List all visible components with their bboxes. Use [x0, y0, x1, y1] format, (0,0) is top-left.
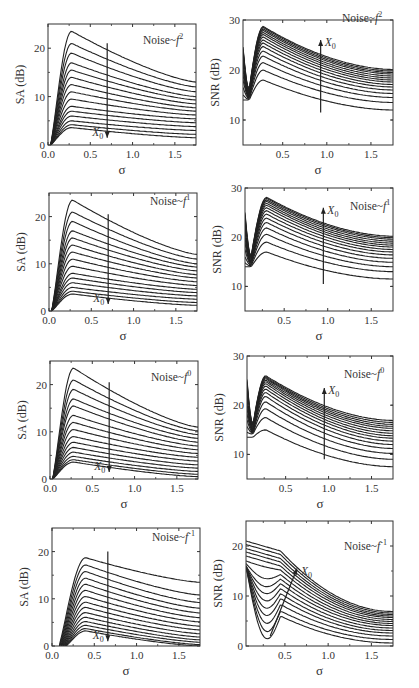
y-axis-label: SNR (dB)	[210, 225, 224, 273]
y-tick-label: 10	[231, 280, 243, 292]
curves	[247, 376, 393, 467]
y-axis-label: SA (dB)	[13, 65, 27, 105]
y-axis-label: SNR (dB)	[212, 393, 226, 441]
y-tick-label: 30	[231, 182, 243, 194]
chart-panel-4: 0.00.51.01.501020σSA (dB)Noise~f0X0	[15, 361, 198, 511]
x-axis-label: σ	[119, 328, 126, 343]
x-tick-label: 1.5	[168, 148, 182, 160]
y-tick-label: 20	[38, 546, 50, 558]
x-tick-label: 0.5	[87, 649, 101, 661]
y-tick-label: 30	[233, 350, 245, 362]
curves	[49, 200, 197, 316]
panel-title: Noise~f0	[344, 366, 384, 381]
panel-title: Noise~f1	[350, 198, 390, 213]
y-tick-label: 10	[233, 448, 245, 460]
data-curve	[50, 422, 198, 483]
curves	[243, 27, 393, 111]
x-tick-label: 0.5	[84, 314, 98, 326]
data-curve	[246, 552, 393, 616]
figure: 0.00.51.01.501020σSA (dB)Noise~f2X00.51.…	[0, 0, 419, 688]
arrow-label: X0	[326, 204, 338, 219]
y-tick-label: 10	[34, 91, 46, 103]
y-tick-label: 20	[36, 379, 48, 391]
x-axis-label: σ	[316, 496, 323, 511]
x-tick-label: 0.5	[85, 482, 99, 494]
y-axis-label: SNR (dB)	[208, 58, 222, 106]
x-tick-label: 1.0	[321, 649, 335, 661]
y-axis-label: SA (dB)	[17, 567, 31, 607]
chart-panel-5: 0.51.01.5102030σSNR (dB)Noise~f0X0	[212, 350, 393, 511]
x-tick-label: 1.0	[321, 314, 335, 326]
x-tick-label: 1.5	[364, 314, 378, 326]
data-curve	[243, 70, 393, 103]
x-tick-label: 0.5	[83, 148, 97, 160]
x-tick-label: 1.5	[169, 314, 183, 326]
arrow-label: X0	[93, 460, 105, 475]
chart-panel-0: 0.00.51.01.501020σSA (dB)Noise~f2X0	[13, 24, 196, 177]
arrowhead-icon	[105, 635, 110, 641]
chart-panel-2: 0.00.51.01.501020σSA (dB)Noise~f1X0	[14, 193, 197, 343]
y-tick-label: 0	[41, 305, 47, 317]
panel-title: Noise~f2	[143, 32, 183, 47]
data-curve	[50, 406, 198, 484]
x-tick-label: 1.5	[170, 482, 184, 494]
data-curve	[48, 70, 196, 150]
y-tick-label: 0	[42, 473, 48, 485]
y-tick-label: 0	[44, 640, 50, 652]
y-axis-label: SA (dB)	[14, 232, 28, 272]
y-tick-label: 0	[40, 139, 46, 151]
y-tick-label: 0	[238, 640, 244, 652]
data-curve	[48, 111, 196, 150]
x-axis-label: σ	[118, 162, 125, 177]
arrowhead-icon	[105, 132, 110, 138]
x-axis-label: σ	[122, 663, 129, 678]
panel-title: Noise~f-1	[152, 529, 195, 544]
y-tick-label: 20	[231, 231, 243, 243]
data-curve	[247, 430, 393, 467]
x-tick-label: 0.5	[278, 649, 292, 661]
y-tick-label: 20	[34, 42, 46, 54]
x-tick-label: 1.5	[172, 649, 186, 661]
chart-panel-7: 0.51.01.501020σSNR (dB)Noise~f-1X0	[211, 521, 393, 678]
chart-panel-3: 0.51.01.5102030σSNR (dB)Noise~f1X0	[210, 182, 393, 343]
data-curve	[49, 245, 197, 316]
panel-title: Noise~f2	[342, 10, 382, 25]
x-axis-label: σ	[315, 328, 322, 343]
arrowhead-icon	[107, 466, 112, 472]
x-tick-label: 1.0	[320, 148, 334, 160]
curves	[48, 31, 196, 149]
arrowhead-icon	[322, 388, 327, 394]
y-tick-label: 10	[232, 590, 244, 602]
y-axis-label: SNR (dB)	[211, 559, 225, 607]
y-tick-label: 20	[229, 64, 241, 76]
arrowhead-icon	[321, 208, 326, 214]
chart-panel-6: 0.00.51.01.501020σSA (dB)Noise~f-1X0	[17, 528, 200, 678]
data-curve	[243, 43, 393, 94]
arrow-label: X0	[327, 384, 339, 399]
x-tick-label: 0.5	[276, 148, 290, 160]
panel-title: Noise~f-1	[344, 538, 387, 553]
x-tick-label: 1.0	[127, 314, 141, 326]
y-tick-label: 10	[38, 593, 50, 605]
curves	[246, 541, 393, 643]
chart-panel-1: 0.51.01.5102030σSNR (dB)Noise~f2X0	[208, 10, 393, 177]
x-axis-label: σ	[120, 496, 127, 511]
y-tick-label: 10	[36, 426, 48, 438]
data-curve	[246, 566, 393, 640]
panel-title: Noise~f1	[150, 193, 190, 208]
y-tick-label: 10	[35, 258, 47, 270]
x-tick-label: 1.5	[364, 148, 378, 160]
data-curve	[48, 128, 196, 150]
x-tick-label: 1.0	[322, 482, 336, 494]
panel-title: Noise~f0	[151, 369, 191, 384]
y-tick-label: 20	[35, 211, 47, 223]
x-tick-label: 0.5	[279, 482, 293, 494]
x-axis-label: σ	[314, 162, 321, 177]
y-tick-label: 30	[229, 14, 241, 26]
y-tick-label: 20	[232, 540, 244, 552]
data-curve	[50, 380, 198, 484]
arrowhead-icon	[106, 298, 111, 304]
x-tick-label: 1.0	[128, 482, 142, 494]
x-tick-label: 1.0	[126, 148, 140, 160]
y-tick-label: 10	[229, 114, 241, 126]
